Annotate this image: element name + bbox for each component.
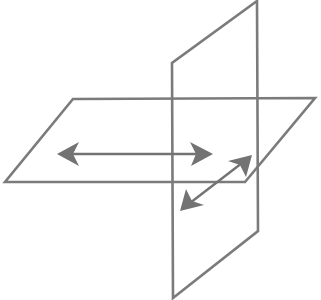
horizontal-plane	[5, 98, 315, 182]
intersecting-planes-diagram	[0, 0, 321, 300]
vertical-plane	[172, 1, 258, 298]
horizontal-double-arrow	[57, 142, 213, 166]
